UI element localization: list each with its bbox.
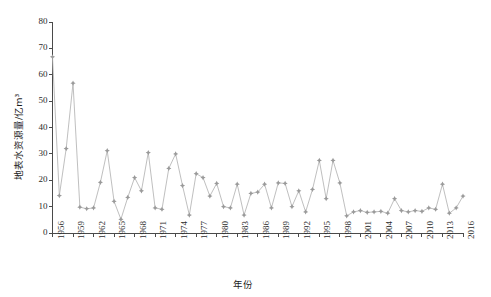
data-point-marker xyxy=(200,175,205,180)
data-point-marker xyxy=(139,188,144,193)
data-point-marker xyxy=(324,196,329,201)
data-point-marker xyxy=(180,183,185,188)
data-point-marker xyxy=(64,146,69,151)
data-point-marker xyxy=(406,209,411,214)
data-point-marker xyxy=(132,175,137,180)
data-point-marker xyxy=(207,193,212,198)
data-point-marker xyxy=(173,151,178,156)
data-point-marker xyxy=(351,209,356,214)
data-point-marker xyxy=(57,193,62,198)
data-point-marker xyxy=(125,195,130,200)
data-point-marker xyxy=(187,212,192,217)
data-point-markers xyxy=(50,54,466,222)
data-point-marker xyxy=(310,187,315,192)
data-point-marker xyxy=(433,207,438,212)
data-point-marker xyxy=(269,205,274,210)
data-point-marker xyxy=(248,191,253,196)
x-axis-tick-label: 1962 xyxy=(98,221,107,239)
data-point-marker xyxy=(330,158,335,163)
data-point-marker xyxy=(413,208,418,213)
data-point-marker xyxy=(419,209,424,214)
x-axis-title: 年份 xyxy=(233,277,253,291)
x-axis-tick-label: 1971 xyxy=(159,221,168,239)
data-point-marker xyxy=(70,81,75,86)
data-point-marker xyxy=(214,181,219,186)
data-point-marker xyxy=(221,204,226,209)
data-point-marker xyxy=(235,182,240,187)
data-point-marker xyxy=(337,180,342,185)
data-point-marker xyxy=(98,180,103,185)
data-point-marker xyxy=(84,206,89,211)
data-point-marker xyxy=(166,166,171,171)
x-axis-tick-label: 2001 xyxy=(364,221,373,239)
x-axis-tick-label: 1959 xyxy=(77,221,86,239)
data-point-marker xyxy=(378,209,383,214)
data-point-marker xyxy=(440,182,445,187)
x-axis-tick-label: 1992 xyxy=(303,221,312,239)
x-axis-tick-label: 1956 xyxy=(57,221,66,239)
data-point-marker xyxy=(146,150,151,155)
x-axis-tick-label: 1974 xyxy=(180,221,189,239)
data-point-marker xyxy=(296,188,301,193)
data-point-marker xyxy=(426,205,431,210)
y-axis-tick-label: 20 xyxy=(22,175,48,184)
data-point-marker xyxy=(303,209,308,214)
data-series-line xyxy=(53,57,464,219)
data-point-marker xyxy=(392,196,397,201)
data-point-marker xyxy=(153,205,158,210)
y-axis-tick-label: 30 xyxy=(22,149,48,158)
x-axis-tick-label: 2013 xyxy=(446,221,455,239)
data-point-marker xyxy=(399,208,404,213)
x-axis-tick-label: 2016 xyxy=(467,221,476,239)
data-point-marker xyxy=(111,199,116,204)
chart-axes xyxy=(49,22,463,237)
data-point-marker xyxy=(460,193,465,198)
chart-container: 01020304050607080 1956195919621965196819… xyxy=(0,0,491,297)
x-axis-tick-label: 1995 xyxy=(323,221,332,239)
data-point-marker xyxy=(283,181,288,186)
data-point-marker xyxy=(358,208,363,213)
chart-plot-svg xyxy=(0,0,491,297)
data-point-marker xyxy=(105,148,110,153)
data-point-marker xyxy=(194,171,199,176)
x-axis-tick-label: 1983 xyxy=(241,221,250,239)
y-axis-tick-label: 0 xyxy=(22,228,48,237)
x-axis-tick-label: 2010 xyxy=(426,221,435,239)
x-axis-tick-label: 2007 xyxy=(405,221,414,239)
data-point-marker xyxy=(371,209,376,214)
x-axis-tick-label: 1998 xyxy=(344,221,353,239)
data-point-marker xyxy=(365,210,370,215)
data-point-marker xyxy=(344,213,349,218)
y-axis-tick-label: 80 xyxy=(22,17,48,26)
x-axis-tick-label: 2004 xyxy=(385,221,394,239)
data-point-marker xyxy=(241,212,246,217)
data-point-marker xyxy=(77,205,82,210)
x-axis-tick-label: 1977 xyxy=(200,221,209,239)
y-axis-tick-label: 70 xyxy=(22,43,48,52)
x-axis-tick-label: 1980 xyxy=(221,221,230,239)
y-axis-tick-label: 10 xyxy=(22,202,48,211)
y-axis-tick-label: 40 xyxy=(22,123,48,132)
y-axis-tick-label: 50 xyxy=(22,96,48,105)
y-axis-tick-label: 60 xyxy=(22,70,48,79)
y-axis-title: 地表水资源量/亿m³ xyxy=(11,94,25,180)
x-axis-tick-label: 1986 xyxy=(262,221,271,239)
x-axis-tick-label: 1968 xyxy=(139,221,148,239)
data-point-marker xyxy=(159,207,164,212)
data-point-marker xyxy=(385,211,390,216)
data-point-marker xyxy=(91,205,96,210)
x-axis-tick-label: 1965 xyxy=(118,221,127,239)
data-point-marker xyxy=(276,180,281,185)
data-point-marker xyxy=(228,205,233,210)
x-axis-tick-label: 1989 xyxy=(282,221,291,239)
data-point-marker xyxy=(50,54,55,59)
data-point-marker xyxy=(289,204,294,209)
data-point-marker xyxy=(317,158,322,163)
